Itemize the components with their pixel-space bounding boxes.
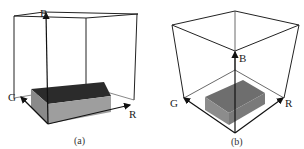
cube-a-top-face [14, 12, 138, 18]
panel-a-cube [14, 12, 138, 124]
label-g-b: G [170, 97, 178, 109]
label-b-a: B [40, 7, 47, 19]
rgb-cube-figure: B G R (a) B G R (b) [0, 0, 304, 149]
caption-b: (b) [231, 136, 243, 148]
caption-a: (a) [74, 135, 85, 147]
cube-b-edge-left [172, 25, 184, 98]
panel-b-cube [172, 11, 299, 133]
label-r-b: R [285, 97, 293, 109]
label-r-a: R [129, 108, 137, 120]
label-b-b: B [239, 52, 246, 64]
label-g-a: G [8, 91, 16, 103]
cube-b-top-face [172, 11, 299, 51]
cube-a-edge-right [134, 14, 137, 100]
figure-canvas: B G R (a) B G R (b) [0, 0, 304, 149]
cube-b-edge-right [284, 25, 299, 98]
